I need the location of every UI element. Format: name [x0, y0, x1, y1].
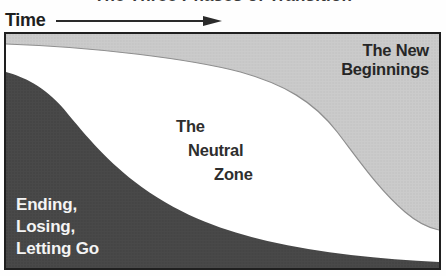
time-axis-label: Time: [5, 10, 46, 30]
time-arrow-icon: [56, 15, 224, 27]
phase-label-neutral-zone: The Neutral Zone: [176, 114, 253, 186]
phase-label-line: Ending,: [16, 194, 99, 216]
phase-label-line: Beginnings: [341, 60, 429, 79]
phase-label-line: Zone: [214, 162, 253, 186]
time-axis: Time: [5, 9, 46, 31]
phase-label-line: Losing,: [16, 216, 99, 238]
transition-diagram-page: The Three Phases of Transition Time: [0, 0, 446, 276]
phase-label-line: Neutral: [188, 138, 253, 162]
phase-label-line: The New: [341, 41, 429, 60]
page-title: The Three Phases of Transition: [0, 0, 446, 6]
phase-label-line: Letting Go: [16, 238, 99, 260]
phase-label-ending: Ending, Losing, Letting Go: [16, 194, 99, 260]
phase-label-line: The: [176, 114, 253, 138]
phase-label-new-beginnings: The New Beginnings: [341, 41, 429, 79]
diagram-box: The New Beginnings The Neutral Zone Endi…: [4, 32, 441, 270]
